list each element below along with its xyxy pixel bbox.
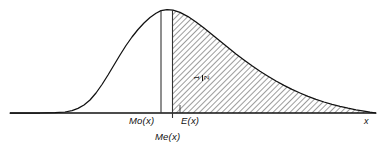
half-area-label: 1 2 [193,65,215,81]
expectation-label: E(x) [181,115,199,126]
shaded-half-area [173,0,377,113]
median-label: Me(x) [155,131,180,142]
fraction-numerator: 1 [193,75,201,81]
mode-label: Mo(x) [129,115,154,126]
fraction-denominator: 2 [203,75,211,81]
distribution-figure: Mo(x) E(x) Me(x) x 1 2 [0,0,386,156]
fraction-one-half: 1 2 [193,75,211,81]
x-axis-label: x [364,116,369,126]
